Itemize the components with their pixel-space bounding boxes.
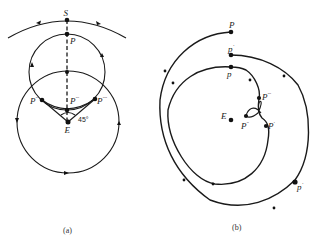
- marker-dot: [283, 75, 286, 78]
- label-P-double-sup: ′′: [247, 121, 250, 126]
- marker-dot: [172, 82, 175, 85]
- angle-arc: [61, 113, 75, 116]
- label-E: E: [64, 125, 71, 135]
- label-P-right-sup: ′′′′: [103, 96, 108, 101]
- small-loop: [246, 101, 261, 117]
- label-p-lower-sup: ′: [302, 182, 304, 187]
- caption-a: (a): [63, 226, 72, 235]
- label-P: P: [69, 36, 76, 46]
- arrow-icon: [15, 118, 19, 123]
- line-left-to-E: [42, 100, 68, 122]
- label-E: E: [220, 111, 227, 121]
- point-E: [229, 118, 234, 123]
- label-angle: 45°: [78, 116, 89, 123]
- point-mid: [65, 70, 69, 74]
- panel-b: P p ′ p P ′′′ E P ′′ P ′ p ′ (b): [160, 20, 309, 232]
- marker-dot: [183, 179, 186, 182]
- label-p: p: [226, 69, 232, 79]
- point-P-center: [65, 108, 70, 113]
- point-P: [65, 32, 70, 37]
- arrow-icon: [36, 21, 41, 25]
- label-p-prime-sup: ′: [233, 44, 235, 49]
- label-S: S: [64, 8, 69, 18]
- label-P-center-sup: ′′′: [76, 96, 80, 101]
- label-P-prime-sup: ′: [274, 121, 276, 126]
- arrow-icon: [117, 121, 121, 125]
- point-P: [229, 30, 234, 35]
- arrow-icon: [64, 171, 69, 175]
- point-E: [66, 120, 71, 125]
- orbit-diagram: S P P ′′ P ′′′ P ′′′′ E 45° (a): [0, 0, 319, 242]
- marker-dot: [212, 183, 215, 186]
- marker-dot: [164, 70, 167, 73]
- inner-spiral: [168, 67, 269, 184]
- arrow-icon: [96, 21, 101, 25]
- marker-dot: [249, 79, 252, 82]
- point-P-double-left: [40, 98, 45, 103]
- caption-b: (b): [232, 223, 242, 232]
- outer-spiral: [160, 32, 309, 205]
- label-P: P: [228, 20, 235, 30]
- label-P-triple-sup: ′′′: [268, 92, 272, 97]
- point-P-double: [244, 114, 248, 118]
- point-S: [65, 18, 70, 23]
- panel-a: S P P ′′ P ′′′ P ′′′′ E 45° (a): [8, 8, 126, 235]
- point-P-triple: [257, 96, 261, 100]
- marker-dot: [273, 207, 276, 210]
